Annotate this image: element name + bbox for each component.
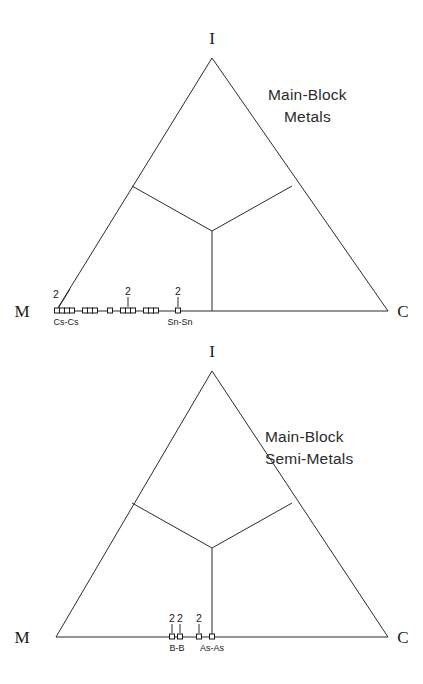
vertex-label-top: I bbox=[209, 29, 215, 48]
panel-main-block-semi-metals: I M C Main-Block Semi-Metals 2 2 2 B-B A… bbox=[14, 342, 408, 653]
data-marker bbox=[210, 634, 215, 639]
data-marker bbox=[154, 308, 159, 313]
leader-line bbox=[59, 289, 70, 307]
data-marker bbox=[170, 634, 175, 639]
point-label-cs-cs: Cs-Cs bbox=[54, 317, 79, 327]
data-marker bbox=[126, 308, 131, 313]
vertex-label-right: C bbox=[397, 628, 408, 647]
region-label-line1: Main-Block bbox=[265, 428, 344, 445]
multiplicity-label: 2 bbox=[177, 612, 183, 624]
diagram-canvas: I M C Main-Block Metals bbox=[0, 0, 423, 684]
point-label-b-b: B-B bbox=[169, 643, 184, 653]
data-marker bbox=[197, 634, 202, 639]
vertex-label-right: C bbox=[397, 302, 408, 321]
data-marker bbox=[178, 634, 183, 639]
point-label-as-as: As-As bbox=[200, 643, 225, 653]
data-marker bbox=[121, 308, 126, 313]
point-label-sn-sn: Sn-Sn bbox=[167, 317, 192, 327]
multiplicity-label: 2 bbox=[175, 285, 181, 297]
multiplicity-label: 2 bbox=[196, 612, 202, 624]
separator-left-branch bbox=[132, 186, 212, 231]
data-marker bbox=[176, 308, 181, 313]
data-marker bbox=[83, 308, 88, 313]
region-label-line2: Semi-Metals bbox=[265, 450, 353, 467]
multiplicity-label: 2 bbox=[169, 612, 175, 624]
data-marker bbox=[144, 308, 149, 313]
vertex-label-top: I bbox=[209, 342, 215, 361]
multiplicity-label: 2 bbox=[125, 285, 131, 297]
data-marker bbox=[93, 308, 98, 313]
data-marker bbox=[108, 308, 113, 313]
separator-right-branch bbox=[212, 186, 292, 231]
triangle-edge-right bbox=[212, 371, 388, 637]
data-marker bbox=[55, 308, 60, 313]
triangle-edge-left bbox=[56, 58, 212, 311]
data-marker bbox=[70, 308, 75, 313]
multiplicity-label: 2 bbox=[53, 288, 59, 300]
triangles-figure: I M C Main-Block Metals bbox=[0, 0, 423, 684]
region-label-line2: Metals bbox=[284, 108, 331, 125]
data-marker bbox=[65, 308, 70, 313]
separator-right-branch bbox=[212, 503, 292, 548]
data-marker bbox=[60, 308, 65, 313]
region-label-line1: Main-Block bbox=[268, 86, 347, 103]
separator-left-branch bbox=[132, 503, 212, 548]
data-marker bbox=[88, 308, 93, 313]
vertex-label-left: M bbox=[14, 628, 29, 647]
data-marker bbox=[131, 308, 136, 313]
vertex-label-left: M bbox=[14, 302, 29, 321]
panel-main-block-metals: I M C Main-Block Metals bbox=[14, 29, 408, 327]
data-marker bbox=[149, 308, 154, 313]
